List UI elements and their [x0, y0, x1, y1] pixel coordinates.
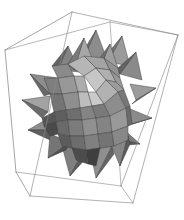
polyhedron-canvas: Stellated polyhedron in bounding box: [0, 0, 184, 220]
polyhedron-figure: Stellated polyhedron in bounding box 3d-…: [0, 0, 184, 220]
core-face: [82, 118, 98, 136]
core-face: [96, 116, 112, 134]
core-face-dark: [66, 108, 82, 120]
core-face: [98, 132, 114, 148]
core-face: [84, 134, 100, 150]
core-face: [68, 120, 84, 136]
